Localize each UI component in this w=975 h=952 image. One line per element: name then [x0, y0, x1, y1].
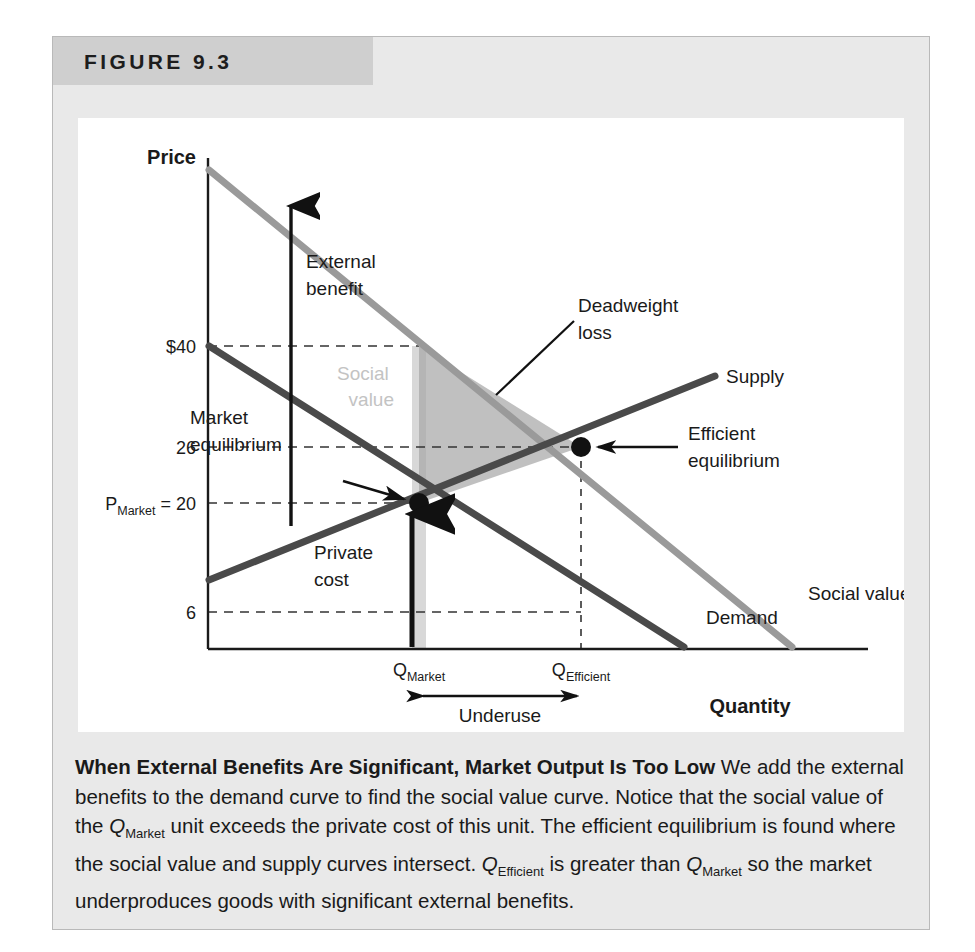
- underuse-label: Underuse: [459, 705, 541, 726]
- deadweight-loss-region: [419, 346, 581, 503]
- caption-q-market-2: Q: [686, 852, 702, 875]
- external-benefit-label-line1: External: [306, 251, 376, 272]
- efficient-equilibrium-label: Efficient equilibrium: [688, 423, 780, 471]
- caption-q-efficient: Q: [482, 852, 498, 875]
- private-cost-label: Private cost: [314, 542, 378, 590]
- social-value-curve: [209, 170, 792, 647]
- market-equilibrium-label: Market equilibrium: [190, 407, 282, 455]
- social-value-band-label: Social value: [337, 363, 394, 410]
- caption-heading: When External Benefits Are Significant, …: [75, 755, 715, 778]
- efficient-equilibrium-label-line2: equilibrium: [688, 450, 780, 471]
- y-axis-title: Price: [147, 146, 196, 168]
- deadweight-loss-label-line1: Deadweight: [578, 295, 679, 316]
- x-tick-q-efficient: QEfficient: [552, 660, 611, 684]
- market-equilibrium-label-line2: equilibrium: [190, 434, 282, 455]
- x-tick-q-market-main: Q: [393, 660, 407, 680]
- efficient-equilibrium-label-line1: Efficient: [688, 423, 756, 444]
- x-tick-q-market: QMarket: [393, 660, 446, 684]
- caption-q-market-2-sub: Market: [702, 864, 742, 879]
- figure-caption: When External Benefits Are Significant, …: [75, 752, 910, 916]
- deadweight-loss-label: Deadweight loss: [578, 295, 684, 343]
- y-tick-p-market: PMarket = 20: [105, 494, 196, 518]
- external-benefit-label: External benefit: [306, 251, 381, 299]
- private-cost-label-line1: Private: [314, 542, 373, 563]
- y-tick-p-market-sub: Market: [117, 504, 156, 518]
- y-tick-p-market-suffix: = 20: [155, 494, 196, 514]
- figure-number-label: FIGURE 9.3: [84, 50, 232, 74]
- figure-banner: FIGURE 9.3: [53, 37, 373, 85]
- x-tick-q-efficient-sub: Efficient: [566, 670, 611, 684]
- supply-curve-label: Supply: [726, 366, 785, 387]
- x-tick-q-market-sub: Market: [407, 670, 446, 684]
- plot-card: $40 26 PMarket = 20 6 Price Quantity QMa…: [78, 118, 904, 732]
- x-tick-q-efficient-main: Q: [552, 660, 566, 680]
- market-equilibrium-arrow: [343, 481, 404, 499]
- caption-q-market-1-sub: Market: [125, 826, 165, 841]
- social-value-band-label-line2: value: [349, 389, 394, 410]
- efficient-equilibrium-point: [571, 437, 591, 457]
- caption-q-efficient-sub: Efficient: [498, 864, 544, 879]
- economics-chart: $40 26 PMarket = 20 6 Price Quantity QMa…: [78, 118, 904, 732]
- y-tick-6: 6: [186, 603, 196, 623]
- deadweight-loss-leader-line: [496, 321, 574, 395]
- market-equilibrium-label-line1: Market: [190, 407, 249, 428]
- deadweight-loss-label-line2: loss: [578, 322, 612, 343]
- social-value-band-label-line1: Social: [337, 363, 389, 384]
- y-tick-p-market-main: P: [105, 494, 117, 514]
- caption-q-market-1: Q: [109, 814, 125, 837]
- market-equilibrium-point: [409, 493, 429, 513]
- demand-curve-label: Demand: [706, 607, 778, 628]
- x-axis-title: Quantity: [709, 695, 791, 717]
- external-benefit-label-line2: benefit: [306, 278, 364, 299]
- figure-root: FIGURE 9.3: [0, 0, 975, 952]
- social-value-curve-label: Social value: [808, 583, 904, 604]
- private-cost-label-line2: cost: [314, 569, 350, 590]
- caption-body-3: is greater than: [544, 852, 686, 875]
- y-tick-40: $40: [166, 337, 196, 357]
